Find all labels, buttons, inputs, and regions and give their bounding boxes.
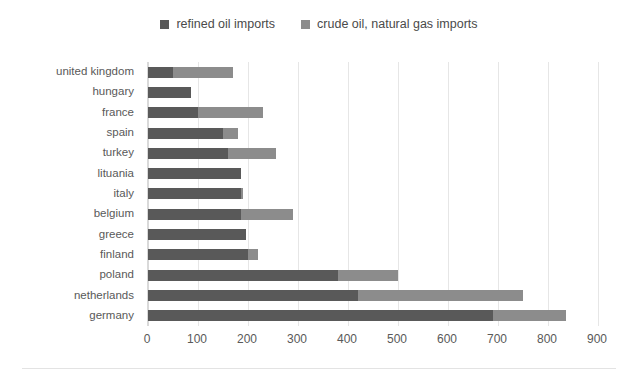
bar-segment-refined[interactable] xyxy=(148,209,241,220)
bar-segment-refined[interactable] xyxy=(148,310,493,321)
bar-segment-refined[interactable] xyxy=(148,87,191,98)
y-tick-label-france: france xyxy=(0,107,142,119)
bar-segment-refined[interactable] xyxy=(148,168,241,179)
bar-row[interactable] xyxy=(148,204,597,224)
bar-segment-refined[interactable] xyxy=(148,229,246,240)
x-tick-label-500: 500 xyxy=(387,333,407,345)
bar-segment-refined[interactable] xyxy=(148,67,173,78)
bar-row[interactable] xyxy=(148,123,597,143)
x-tick-label-400: 400 xyxy=(337,333,357,345)
bar-segment-crude[interactable] xyxy=(228,148,276,159)
y-axis-category-labels: united kingdomhungaryfrancespainturkeyli… xyxy=(0,62,142,326)
bar-row[interactable] xyxy=(148,306,597,326)
legend-entry-refined-oil-imports[interactable]: refined oil imports xyxy=(160,18,275,31)
y-tick-label-turkey: turkey xyxy=(0,147,142,159)
bar-row[interactable] xyxy=(148,285,597,305)
y-tick-label-germany: germany xyxy=(0,310,142,322)
x-tick-label-700: 700 xyxy=(487,333,507,345)
bar-segment-crude[interactable] xyxy=(248,249,258,260)
x-tick-label-300: 300 xyxy=(287,333,307,345)
bar-row[interactable] xyxy=(148,265,597,285)
figure-bottom-divider xyxy=(22,368,616,369)
bar-segment-crude[interactable] xyxy=(338,270,398,281)
y-tick-label-greece: greece xyxy=(0,229,142,241)
y-tick-label-spain: spain xyxy=(0,127,142,139)
bar-segment-refined[interactable] xyxy=(148,107,198,118)
y-tick-label-italy: italy xyxy=(0,188,142,200)
bar-segment-refined[interactable] xyxy=(148,249,248,260)
bar-segment-crude[interactable] xyxy=(198,107,263,118)
bars-layer xyxy=(148,62,597,326)
x-tick-label-200: 200 xyxy=(237,333,257,345)
bar-row[interactable] xyxy=(148,103,597,123)
gridline-900 xyxy=(598,62,599,326)
bar-row[interactable] xyxy=(148,224,597,244)
legend-label-crude-oil-natural-gas-imports: crude oil, natural gas imports xyxy=(317,18,478,31)
y-tick-label-belgium: belgium xyxy=(0,208,142,220)
y-tick-label-hungary: hungary xyxy=(0,86,142,98)
x-axis-tick-labels: 0100200300400500600700800900 xyxy=(147,333,597,351)
bar-segment-crude[interactable] xyxy=(173,67,233,78)
y-tick-label-poland: poland xyxy=(0,269,142,281)
chart-legend: refined oil imports crude oil, natural g… xyxy=(0,18,638,31)
bar-row[interactable] xyxy=(148,164,597,184)
bar-segment-crude[interactable] xyxy=(241,188,244,199)
y-tick-label-united-kingdom: united kingdom xyxy=(0,66,142,78)
x-tick-label-0: 0 xyxy=(144,333,151,345)
x-tick-label-900: 900 xyxy=(587,333,607,345)
plot-area xyxy=(147,62,597,326)
x-tick-label-800: 800 xyxy=(537,333,557,345)
bar-row[interactable] xyxy=(148,82,597,102)
bar-segment-crude[interactable] xyxy=(493,310,566,321)
x-tick-label-600: 600 xyxy=(437,333,457,345)
bar-segment-refined[interactable] xyxy=(148,148,228,159)
bar-segment-crude[interactable] xyxy=(358,290,523,301)
legend-swatch-refined-oil-imports xyxy=(160,20,169,29)
y-tick-label-netherlands: netherlands xyxy=(0,290,142,302)
y-tick-label-finland: finland xyxy=(0,249,142,261)
bar-segment-refined[interactable] xyxy=(148,188,241,199)
legend-label-refined-oil-imports: refined oil imports xyxy=(176,18,275,31)
bar-row[interactable] xyxy=(148,245,597,265)
bar-segment-refined[interactable] xyxy=(148,270,338,281)
bar-row[interactable] xyxy=(148,143,597,163)
bar-chart-figure: refined oil imports crude oil, natural g… xyxy=(0,0,638,387)
bar-segment-refined[interactable] xyxy=(148,128,223,139)
legend-entry-crude-oil-natural-gas-imports[interactable]: crude oil, natural gas imports xyxy=(301,18,478,31)
legend-swatch-crude-oil-natural-gas-imports xyxy=(301,20,310,29)
x-tick-label-100: 100 xyxy=(187,333,207,345)
bar-row[interactable] xyxy=(148,184,597,204)
bar-segment-refined[interactable] xyxy=(148,290,358,301)
bar-segment-crude[interactable] xyxy=(241,209,294,220)
y-tick-label-lituania: lituania xyxy=(0,168,142,180)
bar-row[interactable] xyxy=(148,62,597,82)
bar-segment-crude[interactable] xyxy=(223,128,238,139)
